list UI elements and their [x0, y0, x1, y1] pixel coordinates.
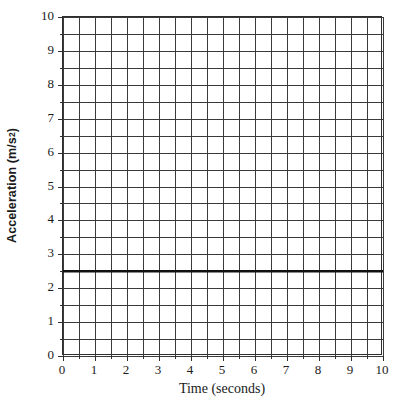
x-tick-label-0: 0 — [59, 362, 66, 378]
y-tick-label-5: 5 — [24, 178, 54, 194]
y-axis-title-tail: ) — [5, 128, 19, 132]
plot-area — [62, 16, 382, 355]
y-axis-title-main: Acceleration (m/s — [5, 137, 19, 243]
acceleration-vs-time-chart: 012345678910 012345678910 Time (seconds)… — [0, 0, 408, 409]
y-tick-label-4: 4 — [24, 211, 54, 227]
axis-tick-marks — [63, 17, 383, 356]
x-tick-label-2: 2 — [123, 362, 130, 378]
x-tick-label-4: 4 — [187, 362, 194, 378]
x-tick-label-10: 10 — [376, 362, 389, 378]
x-tick-label-9: 9 — [347, 362, 354, 378]
x-tick-label-6: 6 — [251, 362, 258, 378]
y-tick-label-10: 10 — [24, 8, 54, 24]
y-tick-label-1: 1 — [24, 313, 54, 329]
x-tick-label-8: 8 — [315, 362, 322, 378]
x-axis-title: Time (seconds) — [62, 381, 382, 397]
y-tick-label-6: 6 — [24, 144, 54, 160]
x-tick-label-5: 5 — [219, 362, 226, 378]
y-axis-title: Acceleration (m/s2) — [0, 16, 24, 355]
y-tick-label-0: 0 — [24, 347, 54, 363]
y-tick-label-8: 8 — [24, 76, 54, 92]
x-tick-label-1: 1 — [91, 362, 98, 378]
y-tick-label-9: 9 — [24, 42, 54, 58]
y-tick-label-2: 2 — [24, 279, 54, 295]
x-tick-label-7: 7 — [283, 362, 290, 378]
y-tick-label-3: 3 — [24, 245, 54, 261]
x-tick-label-3: 3 — [155, 362, 162, 378]
y-tick-label-7: 7 — [24, 110, 54, 126]
